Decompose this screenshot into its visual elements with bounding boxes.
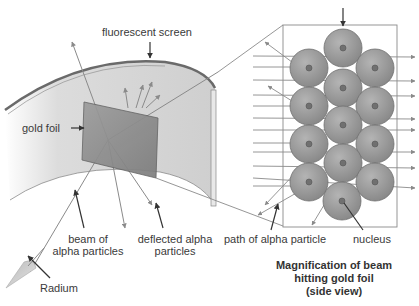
- gold-atoms: [290, 29, 394, 220]
- caption-line1: Magnification of beam: [259, 259, 409, 272]
- deflected-pointer: [156, 203, 163, 228]
- beam-label: beam of alpha particles: [48, 233, 128, 257]
- atom: [324, 144, 362, 182]
- radium-source-icon: [6, 248, 44, 288]
- path-pointer: [271, 204, 278, 230]
- atom: [323, 182, 361, 220]
- beam-label-line2: alpha particles: [48, 245, 128, 257]
- atom: [324, 106, 362, 144]
- beam-label-line1: beam of: [48, 233, 128, 245]
- caption-line2: hitting gold foil: [259, 272, 409, 285]
- atom: [356, 163, 394, 201]
- nucleus-label: nucleus: [353, 233, 391, 245]
- gold-foil-label: gold foil: [22, 122, 60, 134]
- atom: [290, 163, 328, 201]
- deflected-label-line2: particles: [130, 245, 220, 257]
- path-label: path of alpha particle: [224, 233, 326, 245]
- atom: [356, 49, 394, 87]
- beam-pointer: [75, 190, 84, 228]
- atom: [290, 87, 328, 125]
- deflected-label-line1: deflected alpha: [130, 233, 220, 245]
- atom: [356, 87, 394, 125]
- radium-label: Radium: [40, 282, 78, 294]
- atom: [356, 125, 394, 163]
- magnification-caption: Magnification of beam hitting gold foil …: [259, 259, 409, 298]
- fluorescent-screen-label: fluorescent screen: [102, 26, 192, 38]
- caption-line3: (side view): [259, 285, 409, 298]
- atom: [290, 125, 328, 163]
- atom: [324, 29, 362, 67]
- atom: [290, 49, 328, 87]
- deflected-label: deflected alpha particles: [130, 233, 220, 257]
